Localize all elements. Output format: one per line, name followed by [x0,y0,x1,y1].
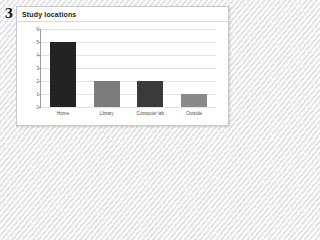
bar-slot: Computer lab [129,29,173,107]
bars-group: HomeLibraryComputer labOutside [41,29,216,107]
chart-panel: Study locations 0123456 HomeLibraryCompu… [16,6,229,126]
x-axis-tick-label: Home [57,111,69,117]
x-axis-tick-label: Outside [186,111,202,117]
bar [181,94,207,107]
y-axis-tick-label: 5 [36,40,39,45]
panel-title: Study locations [22,10,76,19]
plot-area: 0123456 HomeLibraryComputer labOutside [40,29,216,108]
y-axis-tick-label: 0 [36,105,39,110]
bar-slot: Home [41,29,85,107]
question-number: 3 [3,8,15,20]
y-axis-tick-label: 4 [36,53,39,58]
x-axis-tick-label: Library [100,111,114,117]
y-axis-tick-label: 3 [36,66,39,71]
y-axis-tick-label: 2 [36,79,39,84]
y-axis-tick-label: 6 [36,27,39,32]
bar [94,81,120,107]
gridline [41,107,216,108]
bar [50,42,76,107]
y-axis-tick-label: 1 [36,92,39,97]
bar [137,81,163,107]
bar-slot: Outside [172,29,216,107]
x-axis-tick-label: Computer lab [137,111,165,117]
bar-slot: Library [85,29,129,107]
bar-chart: 0123456 HomeLibraryComputer labOutside [17,22,228,125]
